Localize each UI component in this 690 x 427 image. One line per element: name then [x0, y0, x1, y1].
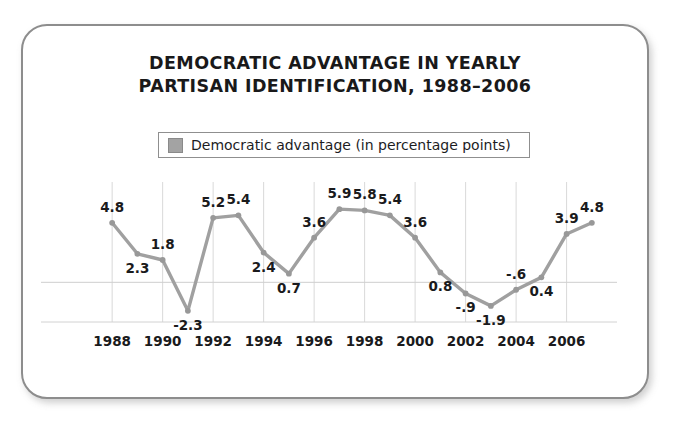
data-point-labels: 4.82.31.8-2.35.25.42.40.73.65.95.85.43.6… [100, 185, 604, 333]
data-label-2004: -.6 [506, 266, 526, 282]
data-label-2007: 4.8 [580, 199, 604, 215]
data-point-1999 [387, 212, 393, 218]
data-point-1993 [235, 212, 241, 218]
data-point-1991 [185, 308, 191, 314]
x-tick-1996: 1996 [295, 333, 333, 349]
data-point-2001 [437, 270, 443, 276]
data-label-2006: 3.9 [555, 210, 579, 226]
data-point-2005 [538, 274, 544, 280]
data-label-1989: 2.3 [125, 260, 149, 276]
data-label-1996: 3.6 [302, 214, 326, 230]
x-tick-1988: 1988 [93, 333, 131, 349]
data-label-1995: 0.7 [277, 280, 301, 296]
data-label-1988: 4.8 [100, 199, 124, 215]
x-tick-1990: 1990 [144, 333, 182, 349]
data-point-2006 [564, 231, 570, 237]
chart-legend: Democratic advantage (in percentage poin… [158, 132, 530, 158]
data-point-2000 [412, 235, 418, 241]
data-point-1994 [261, 250, 267, 256]
data-label-2001: 0.8 [428, 278, 452, 294]
x-tick-2002: 2002 [447, 333, 485, 349]
data-point-1990 [160, 257, 166, 263]
legend-label: Democratic advantage (in percentage poin… [191, 137, 511, 153]
legend-swatch-icon [168, 138, 183, 153]
series-line-democratic-advantage [112, 209, 592, 311]
data-label-2000: 3.6 [403, 214, 427, 230]
data-point-1995 [286, 271, 292, 277]
x-tick-2000: 2000 [396, 333, 434, 349]
data-point-1998 [362, 208, 368, 214]
data-point-1996 [311, 235, 317, 241]
data-label-2003: -1.9 [476, 312, 506, 328]
data-point-2007 [589, 220, 595, 226]
x-axis-tick-labels: 1988199019921994199619982000200220042006 [93, 333, 585, 349]
x-tick-1994: 1994 [245, 333, 283, 349]
data-label-1991: -2.3 [173, 317, 203, 333]
data-point-2002 [463, 291, 469, 297]
data-label-1994: 2.4 [252, 259, 276, 275]
chart-title: DEMOCRATIC ADVANTAGE IN YEARLY PARTISAN … [23, 52, 647, 99]
x-tick-1998: 1998 [346, 333, 384, 349]
data-label-1997: 5.9 [327, 185, 351, 201]
data-point-1992 [210, 215, 216, 221]
line-chart-svg: 4.82.31.8-2.35.25.42.40.73.65.95.85.43.6… [23, 174, 651, 374]
data-label-1998: 5.8 [353, 186, 377, 202]
data-point-1997 [336, 206, 342, 212]
chart-title-line-2: PARTISAN IDENTIFICATION, 1988–2006 [23, 75, 647, 98]
data-point-2003 [488, 303, 494, 309]
data-point-2004 [513, 287, 519, 293]
x-tick-2004: 2004 [497, 333, 535, 349]
x-tick-2006: 2006 [548, 333, 586, 349]
data-label-1993: 5.4 [226, 191, 250, 207]
data-label-1990: 1.8 [151, 236, 175, 252]
chart-title-line-1: DEMOCRATIC ADVANTAGE IN YEARLY [23, 52, 647, 75]
data-point-1988 [109, 220, 115, 226]
data-label-1999: 5.4 [378, 191, 402, 207]
data-label-2002: -.9 [456, 299, 476, 315]
data-label-1992: 5.2 [201, 194, 225, 210]
plot-area: 4.82.31.8-2.35.25.42.40.73.65.95.85.43.6… [23, 174, 651, 374]
data-point-1989 [134, 251, 140, 257]
data-label-2005: 0.4 [529, 283, 553, 299]
chart-card: DEMOCRATIC ADVANTAGE IN YEARLY PARTISAN … [21, 24, 649, 399]
x-tick-1992: 1992 [194, 333, 232, 349]
